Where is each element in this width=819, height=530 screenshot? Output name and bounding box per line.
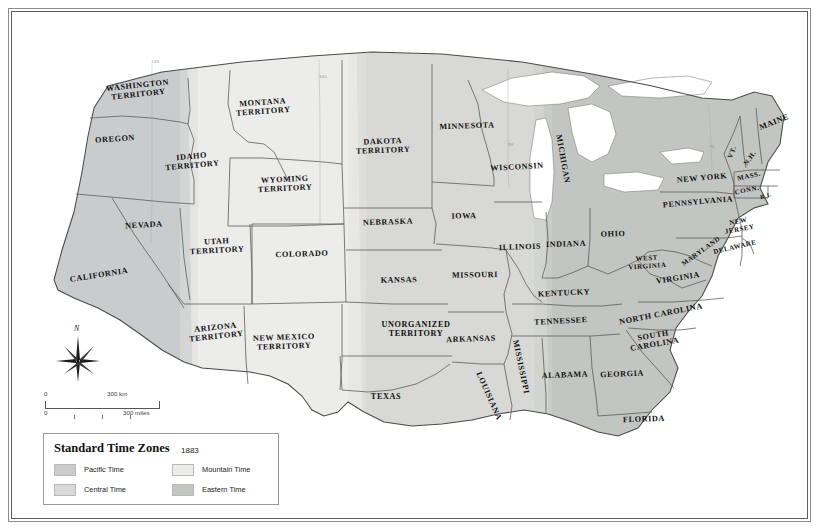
scale-km-value: 300 km <box>107 390 127 397</box>
legend-label: Central Time <box>84 485 126 494</box>
legend-swatch <box>54 484 76 496</box>
compass-rose: N <box>52 324 108 386</box>
meridian-label: 90 <box>508 142 514 147</box>
map-canvas: WASHINGTON TERRITORYOREGONIDAHO TERRITOR… <box>12 12 807 518</box>
compass-north-label: N <box>74 324 79 333</box>
legend-swatch <box>172 484 194 496</box>
meridian-label: 75 <box>709 144 715 149</box>
legend-swatch <box>172 464 194 476</box>
scale-bar: 0 300 km 0 300 miles <box>45 390 173 424</box>
legend-label: Eastern Time <box>202 485 246 494</box>
scale-miles-value: 300 miles <box>123 409 149 416</box>
legend-swatch <box>54 464 76 476</box>
legend-year: 1883 <box>181 446 199 455</box>
legend-label: Mountain Time <box>202 465 250 474</box>
scale-km-zero: 0 <box>44 390 47 397</box>
scale-bar-line <box>45 401 160 409</box>
meridian-label: 120 <box>151 59 159 64</box>
compass-star-icon <box>52 324 108 386</box>
meridian-label: 105 <box>319 74 327 79</box>
legend-box: Standard Time Zones 1883 Pacific TimeMou… <box>43 433 279 505</box>
legend-label: Pacific Time <box>84 465 124 474</box>
map-page: WASHINGTON TERRITORYOREGONIDAHO TERRITOR… <box>0 0 819 530</box>
scale-miles-zero: 0 <box>44 409 47 416</box>
legend-title: Standard Time Zones <box>54 441 170 456</box>
